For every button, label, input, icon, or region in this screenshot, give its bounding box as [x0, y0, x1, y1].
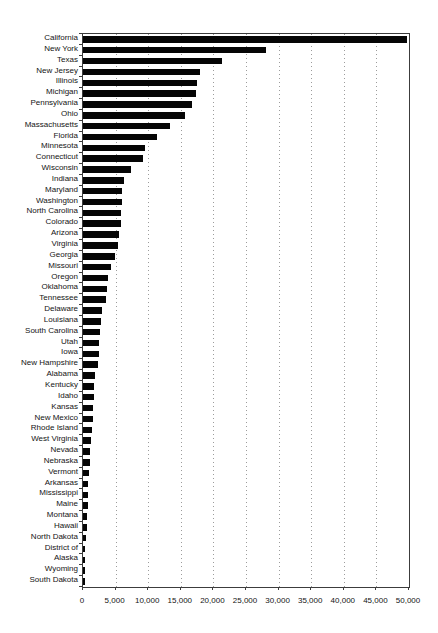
bar-row: [83, 500, 409, 511]
category-label: Missouri: [0, 261, 78, 272]
bar: [83, 340, 99, 347]
category-label: Maryland: [0, 185, 78, 196]
category-label: Arkansas: [0, 478, 78, 489]
category-label: Connecticut: [0, 152, 78, 163]
bar-chart: CaliforniaNew YorkTexasNew JerseyIllinoi…: [0, 0, 438, 633]
category-label: Nevada: [0, 445, 78, 456]
y-axis-tick: [79, 543, 82, 544]
bar: [83, 58, 222, 65]
bar-row: [83, 554, 409, 565]
bar: [83, 557, 85, 564]
y-axis-tick: [79, 434, 82, 435]
x-tick-label: 40,000: [331, 596, 355, 605]
category-label: Wyoming: [0, 564, 78, 575]
category-label: North Carolina: [0, 206, 78, 217]
bar: [83, 264, 111, 271]
category-label: South Carolina: [0, 326, 78, 337]
category-label: Arizona: [0, 228, 78, 239]
bar-row: [83, 533, 409, 544]
y-axis-tick: [79, 239, 82, 240]
bar: [83, 296, 106, 303]
bar-row: [83, 262, 409, 273]
category-label: Utah: [0, 337, 78, 348]
bar-row: [83, 34, 409, 45]
bar: [83, 253, 115, 260]
category-label: Illinois: [0, 76, 78, 87]
y-axis-tick: [79, 499, 82, 500]
bar-row: [83, 489, 409, 500]
y-axis-tick: [79, 315, 82, 316]
category-label: New Mexico: [0, 413, 78, 424]
category-label: Vermont: [0, 467, 78, 478]
category-label: Ohio: [0, 109, 78, 120]
bar: [83, 459, 90, 466]
bar: [83, 188, 122, 195]
bar: [83, 567, 85, 574]
bar-row: [83, 381, 409, 392]
category-label: Oregon: [0, 272, 78, 283]
category-label: Tennessee: [0, 293, 78, 304]
bar: [83, 80, 197, 87]
bar: [83, 199, 122, 206]
bar-row: [83, 142, 409, 153]
x-axis-tick: [310, 587, 311, 590]
y-axis-tick: [79, 380, 82, 381]
x-axis-tick: [82, 587, 83, 590]
category-label: Virginia: [0, 239, 78, 250]
y-axis-tick: [79, 304, 82, 305]
bar-row: [83, 251, 409, 262]
category-label: District of: [0, 543, 78, 554]
bar-row: [83, 67, 409, 78]
x-tick-label: 25,000: [233, 596, 257, 605]
y-axis-tick: [79, 564, 82, 565]
bar-row: [83, 229, 409, 240]
bar-row: [83, 522, 409, 533]
category-label: Iowa: [0, 347, 78, 358]
bar: [83, 220, 121, 227]
y-axis-tick: [79, 293, 82, 294]
category-label: Florida: [0, 131, 78, 142]
bar-row: [83, 175, 409, 186]
bar: [83, 36, 407, 43]
bar-row: [83, 511, 409, 522]
bar: [83, 481, 88, 488]
y-axis-tick: [79, 174, 82, 175]
y-axis-tick: [79, 217, 82, 218]
y-axis-tick: [79, 413, 82, 414]
bar: [83, 513, 87, 520]
bar-row: [83, 186, 409, 197]
bar: [83, 69, 200, 76]
x-axis-tick: [212, 587, 213, 590]
bar-row: [83, 197, 409, 208]
x-axis-tick: [343, 587, 344, 590]
bar: [83, 145, 145, 152]
bar-row: [83, 576, 409, 587]
x-axis-tick: [278, 587, 279, 590]
bar-row: [83, 338, 409, 349]
bar-row: [83, 240, 409, 251]
category-label: Alabama: [0, 369, 78, 380]
y-axis-tick: [79, 467, 82, 468]
bar: [83, 210, 121, 217]
y-axis-tick: [79, 423, 82, 424]
category-label: Minnesota: [0, 141, 78, 152]
y-axis-tick: [79, 109, 82, 110]
x-tick-label: 35,000: [298, 596, 322, 605]
x-tick-label: 0: [80, 596, 84, 605]
y-axis-tick: [79, 369, 82, 370]
bar: [83, 383, 94, 390]
category-label: Oklahoma: [0, 282, 78, 293]
bar-row: [83, 316, 409, 327]
category-label: Pennsylvania: [0, 98, 78, 109]
category-label: Michigan: [0, 87, 78, 98]
category-label: Idaho: [0, 391, 78, 402]
y-axis-tick: [79, 478, 82, 479]
category-label: California: [0, 33, 78, 44]
y-axis-tick: [79, 272, 82, 273]
y-axis-tick: [79, 510, 82, 511]
y-axis-tick: [79, 282, 82, 283]
bar-row: [83, 359, 409, 370]
bar: [83, 361, 98, 368]
bar-row: [83, 153, 409, 164]
bar-row: [83, 327, 409, 338]
